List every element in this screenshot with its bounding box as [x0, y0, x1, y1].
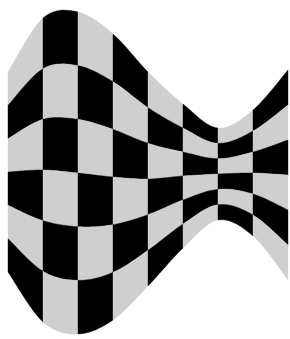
checker-cell — [43, 10, 78, 69]
warped-checkerboard — [0, 0, 290, 339]
checkerboard-graphic — [0, 0, 290, 339]
checker-cell — [78, 272, 113, 334]
checker-cell — [43, 221, 78, 281]
checker-cell — [78, 225, 113, 281]
checker-cell — [43, 64, 78, 119]
checker-cell — [43, 117, 78, 173]
checker-cell — [78, 119, 113, 177]
checker-cell — [43, 170, 78, 227]
checker-cell — [78, 173, 113, 227]
checker-cell — [43, 271, 78, 334]
